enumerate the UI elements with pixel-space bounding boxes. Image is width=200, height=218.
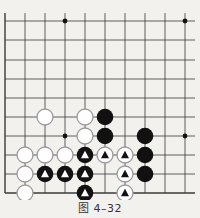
black-stone-triangle-marked: [37, 166, 54, 183]
white-stone: [57, 147, 73, 163]
black-stone: [97, 109, 114, 126]
black-stone-triangle-marked: [77, 185, 94, 200]
figure-caption: 图 4–32: [0, 199, 200, 215]
white-stone-icon: [77, 128, 93, 144]
black-stone-triangle-marked: [57, 166, 74, 183]
board-grid: [5, 13, 195, 193]
white-stone: [17, 147, 33, 163]
white-stone-triangle-marked: [117, 185, 133, 200]
black-stone-icon: [137, 128, 154, 145]
black-stone-icon: [97, 128, 114, 145]
white-stone: [17, 166, 33, 182]
white-stone-triangle-marked: [117, 166, 133, 182]
white-stone-icon: [17, 147, 33, 163]
white-stone: [77, 128, 93, 144]
black-stone-icon: [137, 147, 154, 164]
white-stone: [77, 109, 93, 125]
star-point-icon: [183, 134, 188, 139]
white-stone-icon: [37, 147, 53, 163]
stones-layer: [17, 109, 153, 200]
black-stone-icon: [97, 109, 114, 126]
black-stone: [137, 166, 154, 183]
black-stone-triangle-marked: [77, 147, 94, 164]
black-stone-icon: [137, 166, 154, 183]
black-stone: [97, 128, 114, 145]
go-board-diagram: [0, 0, 200, 200]
white-stone-icon: [37, 109, 53, 125]
black-stone-triangle-marked: [77, 166, 94, 183]
white-stone-icon: [77, 109, 93, 125]
star-point-icon: [63, 134, 68, 139]
white-stone-triangle-marked: [97, 147, 113, 163]
black-stone: [137, 128, 154, 145]
white-stone-icon: [17, 166, 33, 182]
star-point-icon: [183, 19, 188, 24]
black-stone: [137, 147, 154, 164]
white-stone-triangle-marked: [117, 147, 133, 163]
white-stone-icon: [17, 185, 33, 200]
white-stone: [37, 109, 53, 125]
white-stone: [37, 147, 53, 163]
white-stone-icon: [57, 147, 73, 163]
white-stone: [17, 185, 33, 200]
star-point-icon: [63, 19, 68, 24]
